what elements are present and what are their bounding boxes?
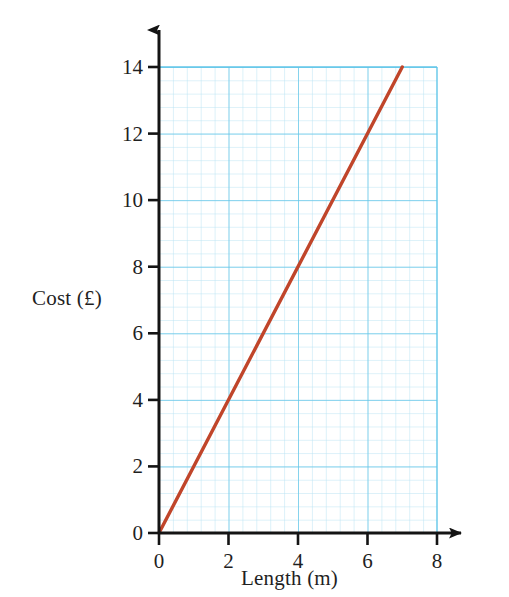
- x-tick-label-2: 2: [223, 549, 234, 574]
- x-tick-label-4: 4: [293, 549, 304, 574]
- x-tick-marks: [159, 533, 437, 545]
- y-tick-label-6: 6: [133, 321, 144, 346]
- y-tick-marks: [148, 67, 159, 533]
- x-tick-label-8: 8: [432, 549, 443, 574]
- y-tick-label-2: 2: [133, 454, 144, 479]
- grid-major: [159, 67, 437, 533]
- y-tick-label-8: 8: [133, 254, 144, 279]
- y-tick-label-10: 10: [122, 188, 143, 213]
- graph-figure: Cost (£) Length (m) 14 12 10 8 6 4 2 0 0…: [0, 0, 509, 597]
- x-axis-label: Length (m): [241, 566, 338, 591]
- x-tick-label-0: 0: [154, 549, 165, 574]
- y-tick-label-14: 14: [122, 55, 143, 80]
- y-tick-label-4: 4: [133, 387, 144, 412]
- y-tick-label-12: 12: [122, 121, 143, 146]
- y-axis-label: Cost (£): [32, 286, 102, 311]
- x-tick-label-6: 6: [362, 549, 373, 574]
- y-tick-label-0: 0: [133, 521, 144, 546]
